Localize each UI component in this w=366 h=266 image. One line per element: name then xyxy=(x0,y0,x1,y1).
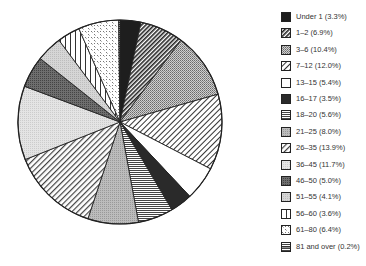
legend-swatch-icon xyxy=(281,143,291,153)
legend-swatch-icon xyxy=(281,176,291,186)
legend-item: Under 1 (3.3%) xyxy=(281,11,366,23)
legend-label: 36–45 (11.7%) xyxy=(296,160,345,170)
legend-item: 81 and over (0.2%) xyxy=(281,241,366,253)
legend-label: 18–20 (5.6%) xyxy=(296,110,341,120)
legend-item: 61–80 (6.4%) xyxy=(281,224,366,236)
legend-label: 7–12 (12.0%) xyxy=(296,61,341,71)
legend-label: 21–25 (8.0%) xyxy=(296,127,341,137)
legend-swatch-icon xyxy=(281,192,291,202)
legend-swatch-icon xyxy=(281,127,291,137)
legend-label: 13–15 (5.4%) xyxy=(296,78,341,88)
legend-label: Under 1 (3.3%) xyxy=(296,12,347,22)
legend-item: 26–35 (13.9%) xyxy=(281,142,366,154)
legend-label: 81 and over (0.2%) xyxy=(296,242,360,252)
legend-item: 18–20 (5.6%) xyxy=(281,109,366,121)
legend-item: 3–6 (10.4%) xyxy=(281,44,366,56)
legend-item: 36–45 (11.7%) xyxy=(281,159,366,171)
legend-label: 16–17 (3.5%) xyxy=(296,94,341,104)
legend-swatch-icon xyxy=(281,94,291,104)
legend-item: 46–50 (5.0%) xyxy=(281,175,366,187)
legend-swatch-icon xyxy=(281,28,291,38)
legend-label: 51–55 (4.1%) xyxy=(296,192,341,202)
legend-label: 46–50 (5.0%) xyxy=(296,176,341,186)
legend-swatch-icon xyxy=(281,45,291,55)
pie-chart xyxy=(0,0,270,266)
legend-swatch-icon xyxy=(281,242,291,252)
legend-swatch-icon xyxy=(281,209,291,219)
legend-swatch-icon xyxy=(281,78,291,88)
legend-item: 13–15 (5.4%) xyxy=(281,77,366,89)
legend-swatch-icon xyxy=(281,160,291,170)
legend-label: 3–6 (10.4%) xyxy=(296,45,337,55)
legend-item: 21–25 (8.0%) xyxy=(281,126,366,138)
legend-item: 7–12 (12.0%) xyxy=(281,60,366,72)
legend-item: 1–2 (6.9%) xyxy=(281,27,366,39)
legend-swatch-icon xyxy=(281,61,291,71)
legend-label: 61–80 (6.4%) xyxy=(296,225,341,235)
legend-label: 1–2 (6.9%) xyxy=(296,28,333,38)
legend-swatch-icon xyxy=(281,225,291,235)
legend-item: 51–55 (4.1%) xyxy=(281,191,366,203)
legend-item: 16–17 (3.5%) xyxy=(281,93,366,105)
legend-label: 56–60 (3.6%) xyxy=(296,209,341,219)
legend-item: 56–60 (3.6%) xyxy=(281,208,366,220)
legend-swatch-icon xyxy=(281,110,291,120)
legend-swatch-icon xyxy=(281,12,291,22)
legend-label: 26–35 (13.9%) xyxy=(296,143,345,153)
